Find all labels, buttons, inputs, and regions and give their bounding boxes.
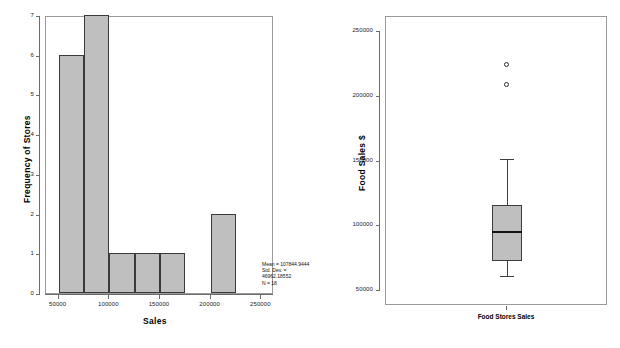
- histogram-x-tick-label: 250000: [240, 301, 280, 307]
- histogram-x-tick-label: 200000: [190, 301, 230, 307]
- histogram-bar: [109, 253, 134, 293]
- boxplot-panel: 50000100000150000200000250000 Food Sales…: [310, 0, 620, 348]
- histogram-plot-area: [45, 16, 273, 294]
- boxplot-y-axis-title: Food Sales $: [357, 134, 367, 190]
- boxplot-category-label: Food Stores Sales: [456, 313, 556, 320]
- histogram-x-tick: [58, 295, 59, 299]
- boxplot-y-tick-label: 50000: [340, 286, 373, 292]
- histogram-y-tick: [36, 16, 40, 17]
- histogram-bar: [59, 55, 84, 293]
- boxplot-outlier-marker: [504, 62, 509, 67]
- histogram-y-tick: [36, 135, 40, 136]
- histogram-y-tick-label: 7: [19, 12, 34, 18]
- histogram-y-tick-label: 6: [19, 52, 34, 58]
- boxplot-category-tick: [506, 306, 507, 310]
- boxplot-lower-whisker: [507, 261, 508, 276]
- boxplot-upper-whisker-cap: [500, 159, 514, 160]
- histogram-bar: [84, 15, 109, 293]
- boxplot-y-tick: [376, 290, 380, 291]
- histogram-x-tick: [260, 295, 261, 299]
- histogram-x-tick-label: 150000: [139, 301, 179, 307]
- histogram-y-axis-title: Frequency of Stores: [22, 115, 32, 203]
- histogram-x-tick: [210, 295, 211, 299]
- histogram-bar: [160, 253, 185, 293]
- boxplot-outlier-marker: [504, 82, 509, 87]
- histogram-x-tick: [108, 295, 109, 299]
- histogram-y-tick: [36, 95, 40, 96]
- histogram-x-axis-title: Sales: [143, 316, 167, 326]
- boxplot-plot-area: [385, 16, 607, 305]
- histogram-bar: [135, 253, 160, 293]
- histogram-y-tick-label: 5: [19, 91, 34, 97]
- histogram-y-tick-label: 2: [19, 211, 34, 217]
- boxplot-median-line: [492, 231, 522, 234]
- histogram-x-tick: [159, 295, 160, 299]
- histogram-y-tick-label: 0: [19, 290, 34, 296]
- boxplot-y-tick: [376, 31, 380, 32]
- boxplot-y-tick: [376, 161, 380, 162]
- boxplot-elements-layer: [386, 17, 606, 304]
- histogram-panel: 01234567 50000100000150000200000250000 F…: [0, 0, 310, 348]
- histogram-x-tick-label: 100000: [88, 301, 128, 307]
- histogram-bar: [211, 214, 236, 293]
- histogram-x-tick-label: 50000: [38, 301, 78, 307]
- histogram-y-tick: [36, 215, 40, 216]
- histogram-y-tick: [36, 175, 40, 176]
- histogram-y-tick: [36, 254, 40, 255]
- boxplot-y-tick: [376, 96, 380, 97]
- histogram-y-axis-line: [39, 16, 40, 294]
- boxplot-y-tick: [376, 225, 380, 226]
- spss-output-page: 01234567 50000100000150000200000250000 F…: [0, 0, 620, 348]
- boxplot-y-tick-label: 200000: [340, 92, 373, 98]
- boxplot-upper-whisker: [507, 159, 508, 205]
- boxplot-y-tick-label: 100000: [340, 221, 373, 227]
- histogram-y-tick: [36, 56, 40, 57]
- histogram-bars-layer: [46, 17, 272, 293]
- boxplot-y-tick-label: 250000: [340, 27, 373, 33]
- histogram-y-tick-label: 1: [19, 250, 34, 256]
- boxplot-lower-whisker-cap: [500, 276, 514, 277]
- histogram-y-tick: [36, 294, 40, 295]
